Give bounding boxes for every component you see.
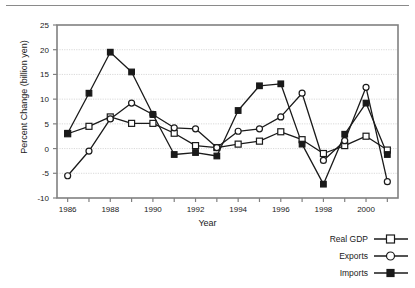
legend-marker-open-circle-icon [373, 250, 409, 262]
legend-item-exports[interactable]: Exports [249, 247, 409, 264]
data-point-marker [321, 181, 327, 187]
data-point-marker [363, 133, 369, 139]
data-point-marker [363, 100, 369, 106]
y-axis-tick-label: 0 [45, 145, 50, 154]
data-point-marker [385, 152, 391, 158]
legend-item-real-gdp[interactable]: Real GDP [249, 230, 409, 247]
data-point-marker [256, 126, 262, 132]
data-point-marker [278, 129, 284, 135]
data-point-marker [257, 83, 263, 89]
data-point-marker [171, 152, 177, 158]
data-point-marker [65, 130, 71, 136]
data-point-marker [299, 141, 305, 147]
data-point-marker [193, 143, 199, 149]
data-point-marker [256, 138, 262, 144]
data-point-marker [342, 131, 348, 137]
legend-label-exports: Exports [339, 251, 368, 261]
data-point-marker [193, 150, 199, 156]
data-point-marker [278, 114, 284, 120]
x-axis-tick-label: 2000 [357, 205, 375, 214]
data-point-marker [86, 123, 92, 129]
data-point-marker [107, 49, 113, 55]
data-point-marker [320, 151, 326, 157]
legend-marker-open-square-icon [373, 233, 409, 245]
y-axis-tick-label: -5 [42, 169, 50, 178]
data-point-marker [214, 153, 220, 159]
x-axis-tick-label: 1992 [187, 205, 205, 214]
data-point-marker [129, 120, 135, 126]
x-axis-tick-label: 1990 [144, 205, 162, 214]
legend-label-real-gdp: Real GDP [330, 234, 368, 244]
legend-label-imports: Imports [340, 268, 368, 278]
x-axis-title: Year [0, 218, 415, 228]
y-axis-tick-label: 15 [40, 70, 49, 79]
data-point-marker [320, 157, 326, 163]
data-point-marker [235, 141, 241, 147]
x-axis-tick-label: 1996 [272, 205, 290, 214]
data-point-marker [193, 126, 199, 132]
data-point-marker [384, 179, 390, 185]
y-axis-tick-label: 10 [40, 95, 49, 104]
y-axis-tick-label: 5 [45, 120, 50, 129]
data-point-marker [214, 145, 220, 151]
data-point-marker [278, 81, 284, 87]
data-point-marker [171, 125, 177, 131]
x-axis-tick-label: 1994 [229, 205, 247, 214]
data-point-marker [86, 148, 92, 154]
data-point-marker [86, 90, 92, 96]
x-axis-tick-label: 1986 [59, 205, 77, 214]
data-point-marker [363, 84, 369, 90]
data-point-marker [107, 116, 113, 122]
y-axis-title: Percent Change (billion yen) [19, 27, 29, 167]
x-axis-tick-label: 1988 [101, 205, 119, 214]
data-point-marker [150, 120, 156, 126]
legend-item-imports[interactable]: Imports [249, 264, 409, 281]
y-axis-tick-label: -10 [37, 194, 49, 203]
data-point-marker [150, 112, 156, 118]
data-point-marker [65, 173, 71, 179]
data-point-marker [129, 69, 135, 75]
data-point-marker [342, 138, 348, 144]
x-axis-tick-label: 1998 [315, 205, 333, 214]
data-point-marker [299, 90, 305, 96]
y-axis-tick-label: 25 [40, 21, 49, 30]
data-point-marker [129, 100, 135, 106]
legend-marker-filled-square-icon [373, 267, 409, 279]
y-axis-tick-label: 20 [40, 46, 49, 55]
chart-figure: 2520151050-5-101986198819901992199419961… [0, 0, 415, 288]
data-point-marker [235, 108, 241, 114]
chart-legend: Real GDP Exports Imports [249, 230, 409, 281]
data-point-marker [235, 128, 241, 134]
